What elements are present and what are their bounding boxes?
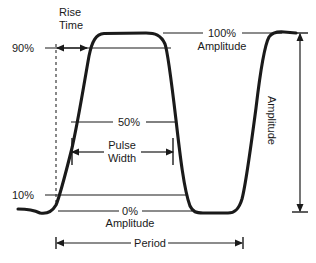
- pulse-waveform-trace: [18, 32, 296, 213]
- rise-time-label-line1: Rise: [59, 6, 83, 19]
- level-label-90pct: 90%: [10, 42, 36, 54]
- amplitude-0-word-label: Amplitude: [104, 217, 157, 229]
- amplitude-100-word-label: Amplitude: [196, 40, 249, 52]
- pulse-width-label-line1: Pulse: [108, 139, 136, 152]
- pulse-waveform-diagram: Rise Time 90% 100% Amplitude 50% Pulse W…: [0, 0, 316, 263]
- pulse-width-label-line2: Width: [108, 152, 136, 165]
- rise-time-label: Rise Time: [57, 6, 85, 31]
- level-label-50pct: 50%: [116, 116, 142, 128]
- amplitude-100-percent-label: 100%: [206, 27, 238, 39]
- pulse-width-label: Pulse Width: [106, 139, 138, 164]
- amplitude-vertical-label: Amplitude: [266, 94, 278, 147]
- level-label-10pct: 10%: [10, 189, 36, 201]
- amplitude-0-percent-label: 0%: [120, 205, 140, 217]
- rise-time-label-line2: Time: [59, 19, 83, 32]
- period-label: Period: [132, 237, 168, 249]
